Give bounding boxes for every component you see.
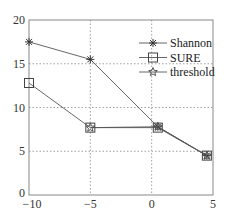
legend-label: Shannon (170, 36, 212, 50)
legend-item-sure: SURE (139, 51, 201, 65)
asterisk-marker-icon (25, 38, 33, 46)
asterisk-marker-icon (149, 39, 157, 47)
legend-item-shannon: Shannon (139, 36, 212, 50)
series-line-sure (29, 83, 207, 156)
y-tick-label: 5 (19, 144, 25, 158)
legend-label: threshold (170, 65, 215, 79)
y-tick-label: 15 (13, 57, 25, 71)
legend-item-threshold: threshold (139, 65, 215, 79)
legend-label: SURE (170, 51, 201, 65)
x-tick-label: 0 (149, 197, 155, 211)
x-tick-label: −10 (23, 197, 42, 211)
x-tick-label: 5 (210, 197, 216, 211)
line-chart: −10−50505101520 ShannonSUREthreshold (0, 0, 227, 220)
y-tick-label: 10 (13, 101, 25, 115)
y-tick-label: 20 (13, 13, 25, 27)
legend: ShannonSUREthreshold (139, 36, 215, 79)
x-tick-label: −5 (84, 197, 97, 211)
asterisk-marker-icon (86, 55, 94, 63)
y-tick-label: 0 (19, 186, 25, 200)
